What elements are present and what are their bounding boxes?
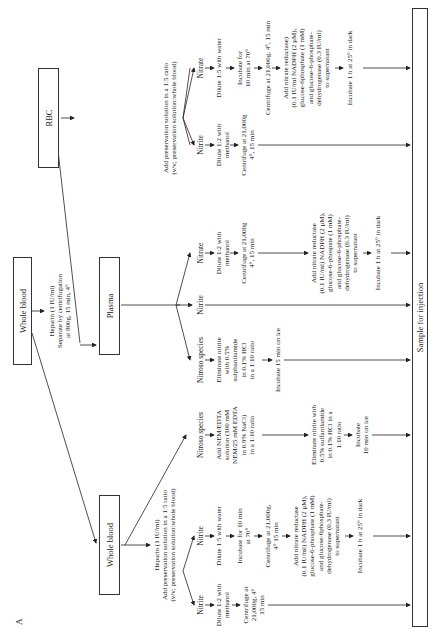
- step-plasma-nitrate-1: Dilute 1:2 withmethanol: [215, 232, 231, 274]
- lane-label-plasma-nitrate: Nitrate: [196, 243, 205, 264]
- step-rbc-nitrate-5: Incubate 1 h at 25° in dark: [346, 31, 354, 105]
- panel-label: A: [14, 619, 24, 626]
- rbc-title: RBC: [44, 110, 54, 127]
- flowchart-diagram: A Whole blood Heparin (1 IU/ml)Separate …: [0, 0, 436, 633]
- step-rbc-nitrite-2: Centrifuge at 21,000g4°, 15 min: [240, 114, 256, 175]
- step-wb-nitrite2-5: Incubate 1 h at 25° in dark: [356, 499, 364, 573]
- step-wb-nitrite2-4: Add nitrate reductase(0.1 IU/ml) NADPH (…: [292, 495, 341, 576]
- whole-blood-treatment-text: Heparin (1 IU/ml)Add preservation soluti…: [153, 489, 178, 602]
- step-wb-nitroso-3: Incubate10 min on ice: [354, 416, 370, 454]
- lane-label-rbc-nitrate: Nitrate: [196, 58, 205, 79]
- step-rbc-nitrite-1: Dilute 1:2 withmethanol: [215, 124, 231, 166]
- step-wb-nitrite2-3: Centrifuge at 21,000g,4° 15 min: [264, 505, 280, 568]
- rbc-treatment-text: Add preservation solution in a 1:5 ratio…: [162, 62, 178, 175]
- step-rbc-nitrate-3: Centrifuge at 21,000g, 4°, 15 min: [264, 21, 272, 115]
- lane-label-plasma-nitroso: Nitroso species: [196, 337, 205, 383]
- step-plasma-nitroso-1: Eliminate nitritewith 0.5%sulphanilamide…: [215, 337, 256, 383]
- lane-label-plasma-nitrite: Nitrite: [196, 295, 205, 315]
- lane-label-rbc-nitrite: Nitrite: [196, 135, 205, 155]
- step-wb-nitrite2-1: Dilute 1:5 with water: [215, 506, 223, 566]
- whole-blood-branch-box: Whole blood: [99, 495, 120, 595]
- whole-blood-root-title: Whole blood: [18, 289, 28, 333]
- lane-label-wb-nitrite: Nitrite: [196, 595, 205, 615]
- sample-for-injection-box: Sample for injection: [412, 8, 428, 627]
- step-rbc-nitrate-1: Dilute 1:5 with water: [215, 38, 223, 98]
- step-rbc-nitrate-2: Incubate for10 min at 70°: [236, 49, 252, 87]
- step-wb-nitrite2-2: Incubate for 10 minat 70°: [236, 508, 252, 563]
- plasma-title: Plasma: [105, 294, 115, 319]
- step-plasma-nitrate-2: Centrifuge at 21,000g4°, 15 min: [240, 222, 256, 283]
- lane-label-wb-nitrite-2: Nitrite: [196, 526, 205, 546]
- plasma-box: Plasma: [99, 257, 120, 355]
- step-wb-nitroso-2: Eliminate nitrite with0.5% sulfanilamide…: [310, 405, 343, 465]
- step-wb-nitroso-1: Add NEM/EDTAsolution (100 mMNEM/25 mM ED…: [215, 406, 256, 464]
- rbc-box: RBC: [38, 68, 59, 168]
- whole-blood-root-box: Whole blood: [13, 257, 32, 365]
- step-plasma-nitrate-4: Incubate 1 h at 25° in dark: [374, 216, 382, 290]
- step-wb-nitrite-1: Dilute 1:2 withmethanol: [215, 584, 231, 626]
- whole-blood-branch-title: Whole blood: [105, 523, 115, 567]
- lane-label-wb-nitroso: Nitroso species: [196, 412, 205, 458]
- step-rbc-nitrate-4: Add nitrate reductase)(0.1 IU/ml NADPH (…: [282, 29, 331, 108]
- sample-for-injection-title: Sample for injection: [415, 283, 425, 352]
- step-wb-nitrite-2: Centrifuge at21,000g, 4°15 min: [242, 587, 267, 624]
- step-plasma-nitrate-3: Add nitrate reductase(0.1 IU/ml) NADPH (…: [310, 212, 359, 293]
- step-plasma-nitroso-2: Incubate 15 min on ice: [274, 328, 282, 392]
- root-treatment-text: Heparin (1 IU/ml)Separate by centrifugat…: [48, 274, 73, 348]
